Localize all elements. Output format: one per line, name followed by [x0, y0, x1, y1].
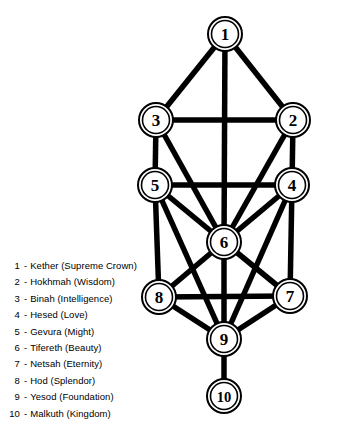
legend-item-index: 7	[0, 356, 20, 372]
legend-item-label: Yesod (Foundation)	[30, 389, 113, 405]
sephira-node-9[interactable]: 9	[207, 322, 241, 356]
sephira-number-4: 4	[288, 176, 297, 195]
legend-item-separator: -	[20, 291, 30, 307]
legend-item-separator: -	[20, 373, 30, 389]
legend-item-separator: -	[20, 258, 30, 274]
sephira-number-8: 8	[155, 288, 164, 307]
legend-item: 3-Binah (Intelligence)	[0, 291, 150, 307]
legend-item-label: Gevura (Might)	[30, 324, 94, 340]
sephira-number-5: 5	[151, 176, 160, 195]
legend-item: 9-Yesod (Foundation)	[0, 389, 150, 405]
legend-item-separator: -	[20, 389, 30, 405]
legend: 1-Kether (Supreme Crown)2-Hokhmah (Wisdo…	[0, 258, 150, 422]
legend-item-index: 4	[0, 307, 20, 323]
legend-item-index: 6	[0, 340, 20, 356]
legend-item-index: 10	[0, 406, 20, 422]
legend-item-label: Malkuth (Kingdom)	[30, 406, 111, 422]
tree-path-1-6	[224, 34, 225, 242]
legend-item-index: 8	[0, 373, 20, 389]
legend-item-index: 1	[0, 258, 20, 274]
legend-item-label: Tifereth (Beauty)	[30, 340, 101, 356]
tree-of-life-figure: 12345678910 1-Kether (Supreme Crown)2-Ho…	[0, 0, 337, 440]
legend-item-separator: -	[20, 324, 30, 340]
sephira-node-5[interactable]: 5	[138, 168, 172, 202]
sephira-node-3[interactable]: 3	[139, 103, 173, 137]
sephira-node-6[interactable]: 6	[207, 225, 241, 259]
legend-item: 10-Malkuth (Kingdom)	[0, 406, 150, 422]
sephira-number-2: 2	[289, 111, 298, 130]
legend-item: 8-Hod (Splendor)	[0, 373, 150, 389]
legend-item-label: Netsah (Eternity)	[30, 356, 102, 372]
legend-item-index: 5	[0, 324, 20, 340]
sephira-node-4[interactable]: 4	[275, 168, 309, 202]
legend-item-label: Binah (Intelligence)	[30, 291, 112, 307]
legend-item-label: Hod (Splendor)	[30, 373, 95, 389]
legend-item: 4-Hesed (Love)	[0, 307, 150, 323]
legend-item: 7-Netsah (Eternity)	[0, 356, 150, 372]
sephira-number-1: 1	[221, 25, 230, 44]
legend-item-label: Kether (Supreme Crown)	[30, 258, 137, 274]
legend-item: 2-Hokhmah (Wisdom)	[0, 274, 150, 290]
sephira-node-7[interactable]: 7	[273, 279, 307, 313]
legend-item-label: Hokhmah (Wisdom)	[30, 274, 115, 290]
legend-item: 5-Gevura (Might)	[0, 324, 150, 340]
legend-item-index: 2	[0, 274, 20, 290]
sephira-number-10: 10	[217, 389, 232, 405]
sephira-node-2[interactable]: 2	[276, 103, 310, 137]
legend-item-separator: -	[20, 340, 30, 356]
legend-list: 1-Kether (Supreme Crown)2-Hokhmah (Wisdo…	[0, 258, 150, 422]
legend-item-index: 3	[0, 291, 20, 307]
sephira-number-3: 3	[152, 111, 161, 130]
legend-item: 1-Kether (Supreme Crown)	[0, 258, 150, 274]
legend-item-separator: -	[20, 406, 30, 422]
sephira-node-1[interactable]: 1	[208, 17, 242, 51]
legend-item: 6-Tifereth (Beauty)	[0, 340, 150, 356]
legend-item-index: 9	[0, 389, 20, 405]
sephira-number-9: 9	[220, 330, 229, 349]
legend-item-separator: -	[20, 274, 30, 290]
legend-item-separator: -	[20, 356, 30, 372]
tree-path-8-7	[159, 296, 290, 297]
sephira-number-6: 6	[220, 233, 229, 252]
legend-item-label: Hesed (Love)	[30, 307, 88, 323]
sephira-number-7: 7	[286, 287, 295, 306]
legend-item-separator: -	[20, 307, 30, 323]
sephira-node-10[interactable]: 10	[207, 379, 241, 413]
